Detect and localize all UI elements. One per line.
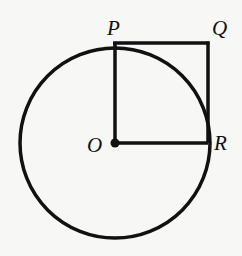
label-q: Q (212, 16, 227, 40)
geometry-diagram: P Q R O (0, 0, 242, 256)
label-p: P (106, 16, 120, 40)
label-r: R (213, 131, 227, 155)
center-point-o (111, 139, 120, 148)
label-o: O (87, 133, 102, 157)
